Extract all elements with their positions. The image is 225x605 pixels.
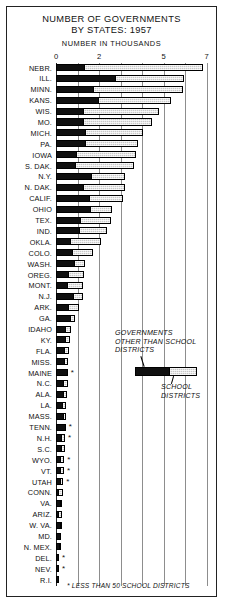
state-label-calif: CALIF. [29,194,52,203]
bar-segment-other-governments [57,555,58,560]
bar-segment-school-districts [64,348,68,353]
state-label-sdak: S. DAK. [25,161,52,170]
footnote-asterisk: * [67,467,70,475]
bar-segment-other-governments [57,98,98,103]
stacked-bar [56,533,61,540]
state-label-ndak: N. DAK. [25,183,52,192]
page-subtitle: BY STATES: 1957 [7,25,216,36]
bar-segment-other-governments [57,228,79,233]
state-label-tenn: TENN. [29,423,52,432]
state-label-nh: N.H. [37,433,52,442]
state-label-pa: PA. [40,139,52,148]
state-label-ohio: OHIO [33,205,52,214]
bar-segment-school-districts [63,414,65,419]
bar-segment-school-districts [84,65,202,70]
bar-segment-other-governments [57,327,65,332]
state-label-ri: R.I. [40,575,52,584]
page-title: NUMBER OF GOVERNMENTS [7,14,216,25]
state-label-ariz: ARIZ. [33,510,52,519]
stacked-bar [56,576,59,583]
legend-other-line1: GOVERNMENTS [115,329,217,338]
stacked-bar [56,413,66,420]
state-label-mass: MASS. [29,412,52,421]
bar-segment-other-governments [57,261,74,266]
bar-segment-other-governments [57,283,67,288]
state-label-mo: MO. [38,117,52,126]
chart-row: S.C. [56,444,211,453]
state-label-mich: MICH. [31,128,52,137]
stacked-bar [56,315,75,322]
stacked-bar [56,260,85,267]
bar-segment-school-districts [64,359,67,364]
stacked-bar [56,522,62,529]
bar-segment-school-districts [58,490,61,495]
stacked-bar [56,391,67,398]
stacked-bar [56,543,61,550]
chart-row: VT.* [56,466,211,475]
x-tick-0: 0 [54,52,58,61]
chart-row: N. MEX. [56,542,211,551]
bar-segment-school-districts [68,272,83,277]
stacked-bar [56,249,93,256]
bar-segment-school-districts [70,316,75,321]
title-block: NUMBER OF GOVERNMENTS BY STATES: 1957 NU… [7,14,216,48]
state-label-ala: ALA. [36,390,52,399]
bar-segment-other-governments [57,577,58,582]
bar-segment-school-districts [60,468,63,473]
state-label-utah: UTAH [32,477,52,486]
chart-row: UTAH* [56,477,211,486]
bar-segment-other-governments [57,218,80,223]
bar-segment-school-districts [60,523,61,528]
axis-unit-label: NUMBER IN THOUSANDS [7,39,216,48]
stacked-bar [56,282,83,289]
bar-segment-school-districts [115,76,183,81]
chart-row: WASH. [56,259,211,268]
footnote-asterisk: * [62,565,65,573]
stacked-bar [56,565,59,572]
chart-row: OKLA. [56,237,211,246]
state-label-del: DEL. [35,553,52,562]
bar-segment-other-governments [57,76,115,81]
state-label-md: MD. [38,532,52,541]
chart-row: N. DAK. [56,183,211,192]
bar-segment-other-governments [57,152,76,157]
chart-row: MO. [56,117,211,126]
stacked-bar [56,478,63,485]
bar-segment-other-governments [57,185,83,190]
state-label-la: LA. [41,401,52,410]
x-tick-7: 7 [205,52,209,61]
footnote-asterisk: * [69,423,72,431]
stacked-bar [56,456,64,463]
stacked-bar [56,238,101,245]
chart-row: COLO. [56,248,211,257]
state-label-tex: TEX. [35,216,52,225]
bar-segment-school-districts [61,446,64,451]
state-label-nc: N.C. [37,379,52,388]
bar-segment-other-governments [57,359,64,364]
stacked-bar [56,271,84,278]
footnote-asterisk: * [66,478,69,486]
bar-segment-other-governments [57,174,91,179]
stacked-bar [56,489,63,496]
state-label-iowa: IOWA [32,150,52,159]
bar-segment-other-governments [57,425,65,430]
stacked-bar [56,434,65,441]
chart-row: GA. [56,314,211,323]
bar-segment-school-districts [60,457,63,462]
stacked-bar [56,467,64,474]
chart-row: CALIF. [56,194,211,203]
state-label-ill: ILL. [39,74,52,83]
bar-segment-school-districts [76,152,135,157]
state-label-wva: W. VA. [29,521,52,530]
chart-frame: NUMBER OF GOVERNMENTS BY STATES: 1957 NU… [6,6,217,597]
bar-segment-other-governments [57,566,58,571]
stacked-bar [56,500,62,507]
chart-row: ARK. [56,303,211,312]
stacked-bar [56,336,70,343]
state-label-kans: KANS. [29,96,52,105]
state-label-wyo: WYO. [32,455,52,464]
bar-segment-other-governments [57,370,67,375]
chart-row: MISS. [56,357,211,366]
stacked-bar [56,64,203,71]
stacked-bar [56,75,184,82]
